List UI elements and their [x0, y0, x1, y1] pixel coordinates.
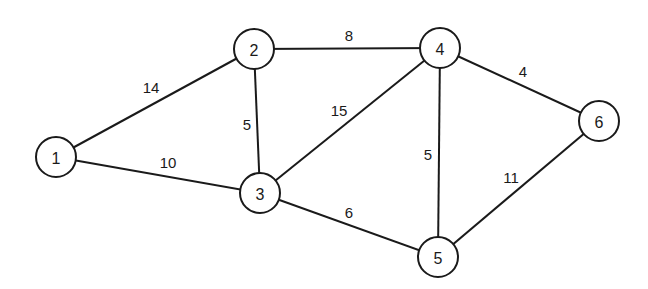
node-2: 2	[234, 29, 274, 69]
node-label: 3	[256, 186, 265, 203]
edge-4-6	[440, 48, 599, 121]
edge-weight-4-6: 4	[519, 63, 527, 80]
node-label: 5	[434, 250, 443, 267]
edge-weight-2-3: 5	[243, 116, 251, 133]
node-6: 6	[579, 101, 619, 141]
edges	[56, 48, 599, 257]
node-4: 4	[420, 28, 460, 68]
edge-4-5	[438, 48, 440, 257]
graph-diagram: 14 10 5 8 15 6 5 4 11 1 2 3 4 5	[0, 0, 648, 289]
node-3: 3	[240, 173, 280, 213]
edge-weight-3-5: 6	[345, 204, 353, 221]
edge-3-4	[260, 48, 440, 193]
edge-2-3	[254, 49, 260, 193]
edge-2-4	[254, 48, 440, 49]
nodes: 1 2 3 4 5 6	[36, 28, 619, 277]
node-label: 1	[52, 150, 61, 167]
edge-weight-1-3: 10	[160, 154, 177, 171]
edge-weight-5-6: 11	[503, 169, 519, 186]
edge-5-6	[438, 121, 599, 257]
node-1: 1	[36, 137, 76, 177]
edge-weight-4-5: 5	[424, 146, 432, 163]
edge-weight-1-2: 14	[143, 79, 160, 96]
node-label: 2	[250, 42, 259, 59]
edge-1-3	[56, 157, 260, 193]
edge-weights: 14 10 5 8 15 6 5 4 11	[143, 27, 528, 221]
edge-weight-3-4: 15	[331, 102, 348, 119]
node-label: 4	[436, 41, 445, 58]
edge-weight-2-4: 8	[345, 27, 353, 44]
edge-1-2	[56, 49, 254, 157]
node-5: 5	[418, 237, 458, 277]
node-label: 6	[595, 114, 604, 131]
